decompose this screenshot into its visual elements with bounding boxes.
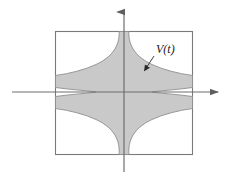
region-label: V(t) <box>156 42 175 56</box>
diagram-svg: V(t) <box>0 0 234 180</box>
figure-container: V(t) <box>0 0 234 180</box>
